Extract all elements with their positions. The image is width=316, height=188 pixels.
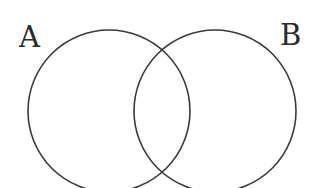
set-b-circle	[134, 30, 296, 188]
set-a-circle	[28, 30, 190, 188]
set-a-label: A	[19, 23, 40, 52]
venn-diagram	[0, 0, 316, 188]
set-b-label: B	[280, 21, 301, 50]
